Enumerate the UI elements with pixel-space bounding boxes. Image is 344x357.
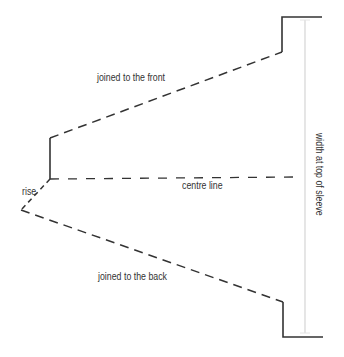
back-seam-line (21, 210, 283, 302)
width-label: width at top of sleeve (314, 133, 325, 216)
centre-label: centre line (182, 180, 223, 191)
top-cuff-edge (282, 17, 322, 52)
centre-line (50, 177, 295, 179)
bottom-cuff-edge (283, 302, 323, 337)
back-label: joined to the back (98, 271, 167, 282)
front-seam-line (50, 52, 282, 138)
front-label: joined to the front (97, 72, 165, 83)
sleeve-diagram (0, 0, 344, 357)
rise-label: rise (22, 186, 36, 197)
